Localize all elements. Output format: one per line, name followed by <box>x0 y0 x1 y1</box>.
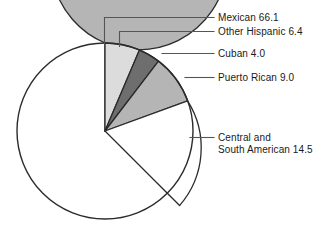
label-central-south-american-line2: South American 14.5 <box>218 144 313 156</box>
label-mexican: Mexican 66.1 <box>218 12 279 24</box>
pie-chart-figure: Mexican 66.1 Other Hispanic 6.4 Cuban 4.… <box>0 0 326 233</box>
pie-slices <box>17 0 227 219</box>
label-cuban: Cuban 4.0 <box>218 48 265 60</box>
label-puerto-rican: Puerto Rican 9.0 <box>218 72 294 84</box>
label-central-south-american-line1: Central and <box>218 132 271 144</box>
label-other-hispanic: Other Hispanic 6.4 <box>218 26 303 38</box>
